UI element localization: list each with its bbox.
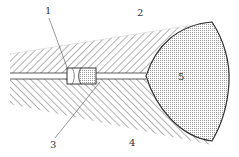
label-1: 1 bbox=[45, 5, 51, 16]
label-3: 3 bbox=[50, 139, 56, 150]
cross-section-diagram: 1 2 3 4 5 bbox=[0, 0, 239, 157]
label-5: 5 bbox=[178, 71, 184, 82]
plug-element bbox=[67, 68, 96, 84]
label-4: 4 bbox=[129, 137, 135, 148]
label-2: 2 bbox=[137, 7, 143, 18]
